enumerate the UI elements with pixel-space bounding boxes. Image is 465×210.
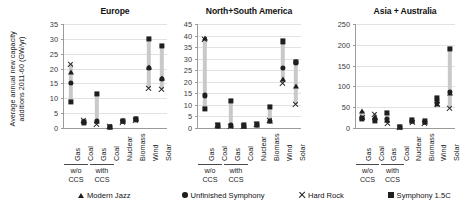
data-point-marker [397,124,402,129]
y-tick-label: 5 [33,109,58,118]
y-tick-mark [61,24,64,25]
gridline [356,86,455,87]
legend-marker-triangle-icon [78,193,84,198]
y-tick-mark [195,70,198,71]
x-tick-label: Coal [86,146,95,161]
gridline [356,66,455,67]
x-tick-label: Solar [452,144,461,161]
chart-panel: North+South America051015202530354045Gas… [163,6,308,186]
data-point-marker [360,117,365,122]
gridline [198,59,301,60]
y-tick-mark [195,47,198,48]
gridline [64,54,167,55]
data-point-marker [422,118,427,123]
x-tick-label: Gas [73,148,82,161]
group-label-line1: with [90,166,114,175]
y-tick-mark [353,66,356,67]
data-point-marker [279,80,286,87]
data-point-marker [68,99,73,104]
y-axis-title: Average annual new capacity additions 20… [2,18,32,140]
y-tick-mark [195,82,198,83]
plot-area [63,24,167,128]
data-point-marker [67,61,74,68]
gridline [198,47,301,48]
y-tick-label: 0 [313,124,350,133]
y-tick-label: 45 [163,20,192,29]
data-point-marker [68,69,74,74]
group-label-line2: CCS [64,175,88,184]
y-tick-mark [353,24,356,25]
gridline [356,45,455,46]
data-point-marker [146,36,151,41]
y-tick-label: 0 [163,124,192,133]
data-point-marker [435,96,440,101]
value-range-band [448,49,452,108]
data-point-marker [267,105,272,110]
group-label-line2: CCS [198,175,222,184]
group-label-line2: CCS [224,175,248,184]
x-tick-label: Nuclear [125,136,134,161]
gridline [64,113,167,114]
y-tick-mark [195,116,198,117]
y-tick-label: 25 [33,49,58,58]
gridline [198,116,301,117]
gridline [64,98,167,99]
x-tick-label: Coal [220,146,229,161]
group-label-line1: w/o [64,166,88,175]
data-point-marker [372,118,377,123]
y-tick-mark [353,45,356,46]
legend-item[interactable]: Hard Rock [298,188,344,202]
y-tick-label: 10 [33,94,58,103]
gridline [198,105,301,106]
y-tick-label: 35 [33,20,58,29]
y-tick-label: 35 [163,43,192,52]
legend-item[interactable]: Modern Jazz [78,188,130,202]
legend-marker-x-icon [298,192,305,199]
data-point-marker [292,101,299,108]
data-point-marker [227,123,234,130]
y-axis-title-line1: Average annual new capacity [8,31,17,126]
data-point-marker [254,121,259,126]
x-tick-label: Gas [364,148,373,161]
x-tick-label: Gas [389,148,398,161]
group-label-line1: with [381,166,404,175]
data-point-marker [241,123,246,128]
data-point-marker [384,120,391,127]
gridline [356,128,455,129]
legend-item[interactable]: Symphony 1.5C [388,188,451,202]
x-tick-label: Gas [233,148,242,161]
data-point-marker [133,116,138,121]
legend-marker-circle-icon [182,192,188,198]
data-point-marker [280,39,285,44]
x-tick-label: Nuclear [259,136,268,161]
figure-root: Average annual new capacity additions 20… [0,0,465,210]
y-tick-mark [61,69,64,70]
data-point-marker [410,118,415,123]
gridline [64,24,167,25]
panel-title: Europe [63,6,167,16]
gridline [198,93,301,94]
y-tick-label: 40 [163,31,192,40]
x-tick-label: Coal [377,146,386,161]
y-tick-label: 100 [313,82,350,91]
y-tick-label: 15 [163,89,192,98]
data-point-marker [293,59,298,64]
y-tick-label: 5 [163,112,192,121]
x-tick-label: Wind [151,145,160,161]
plot-area [197,24,301,128]
data-point-marker [266,117,273,124]
x-tick-label: Wind [285,145,294,161]
data-point-marker [201,36,208,43]
legend-item[interactable]: Unfinished Symphony [182,188,264,202]
gridline [64,128,167,129]
y-tick-label: 250 [313,20,350,29]
gridline [356,24,455,25]
group-label-line1: with [224,166,248,175]
y-tick-mark [61,39,64,40]
chart-legend: Modern JazzUnfinished SymphonyHard RockS… [0,188,465,204]
x-tick-label: Wind [439,145,448,161]
y-tick-mark [195,93,198,94]
y-tick-mark [195,59,198,60]
y-tick-label: 50 [313,103,350,112]
x-tick-label: Coal [246,146,255,161]
